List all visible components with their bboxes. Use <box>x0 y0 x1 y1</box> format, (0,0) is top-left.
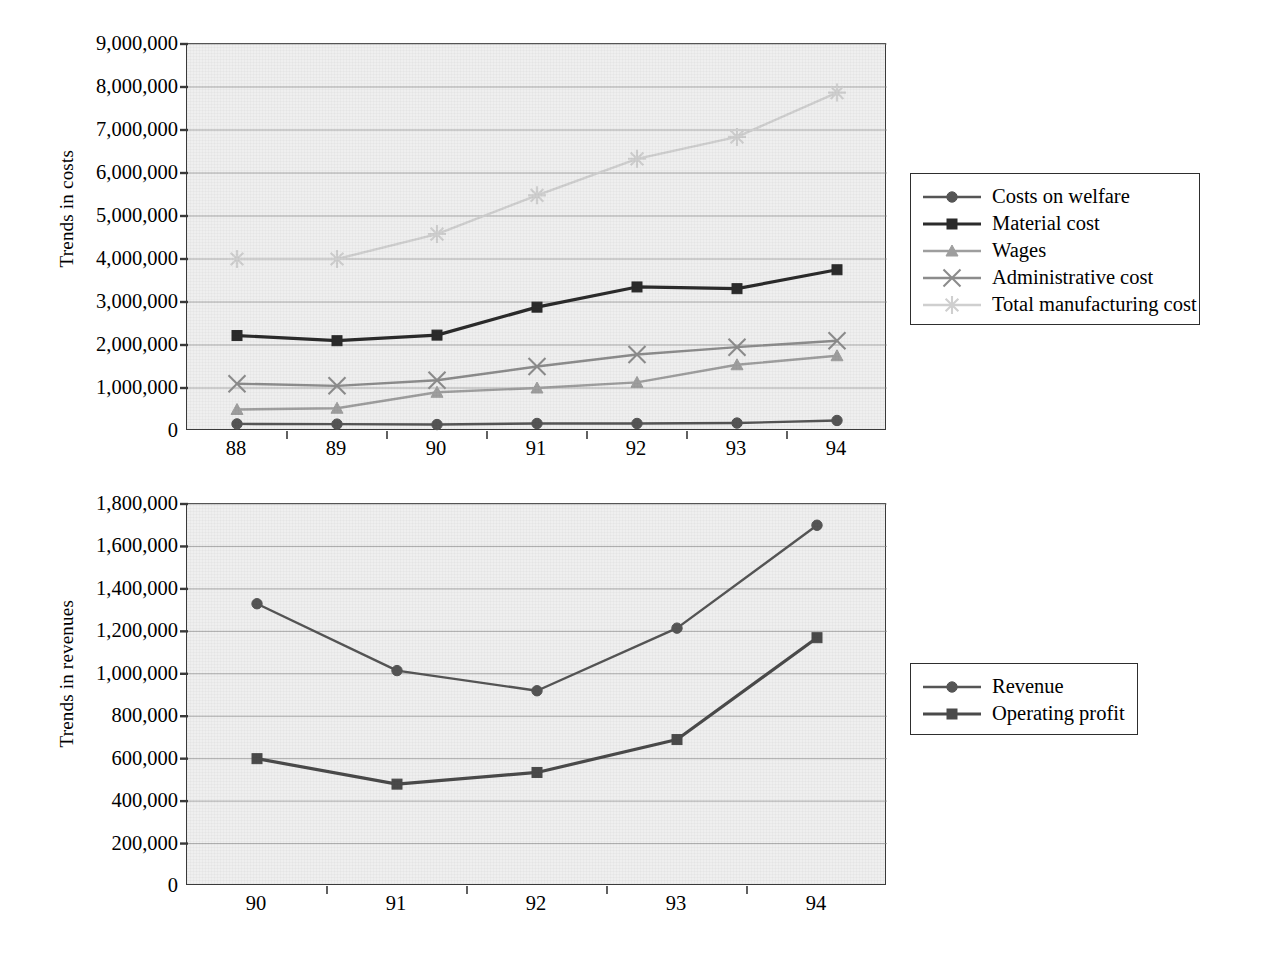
legend-item[interactable]: Revenue <box>911 673 1137 700</box>
y-axis-tick-label: 1,800,000 <box>0 492 178 515</box>
legend-item[interactable]: Wages <box>911 237 1199 264</box>
legend-item-label: Wages <box>992 240 1046 261</box>
chart2-legend: RevenueOperating profit <box>910 663 1138 735</box>
legend-item-label: Material cost <box>992 213 1100 234</box>
y-axis-tick-label: 8,000,000 <box>0 75 178 98</box>
x-axis-tick-label: 93 <box>726 437 747 460</box>
series-operating-profit <box>252 633 822 789</box>
x-axis-tick-label: 91 <box>526 437 547 460</box>
y-axis-tick-label: 0 <box>0 419 178 442</box>
series-material-cost <box>232 265 842 346</box>
legend-item[interactable]: Costs on welfare <box>911 183 1199 210</box>
y-axis-tick-label: 800,000 <box>0 704 178 727</box>
chart2-series-canvas <box>187 504 887 886</box>
y-axis-tick-label: 400,000 <box>0 789 178 812</box>
circle-marker-icon <box>921 186 983 208</box>
circle-marker-icon <box>921 676 983 698</box>
x-axis-tick-label: 93 <box>666 892 687 915</box>
x-axis-tick-label: 94 <box>826 437 847 460</box>
legend-item[interactable]: Material cost <box>911 210 1199 237</box>
y-axis-tick-label: 1,200,000 <box>0 619 178 642</box>
chart-trends-in-revenues: Trends in revenues 0200,000400,000600,00… <box>0 482 1266 965</box>
x-axis-tick-label: 92 <box>626 437 647 460</box>
series-costs-on-welfare <box>232 415 842 429</box>
chart1-legend: Costs on welfareMaterial costWagesAdmini… <box>910 173 1200 325</box>
x-axis-tick-label: 90 <box>246 892 267 915</box>
y-axis-tick-label: 7,000,000 <box>0 118 178 141</box>
y-axis-tick-label: 2,000,000 <box>0 333 178 356</box>
x-axis-tick-label: 90 <box>426 437 447 460</box>
legend-item[interactable]: Operating profit <box>911 700 1137 727</box>
chart2-plot-area <box>186 503 886 885</box>
chart1-y-axis-ticks: 01,000,0002,000,0003,000,0004,000,0005,0… <box>0 0 178 1</box>
y-axis-tick-label: 3,000,000 <box>0 290 178 313</box>
x-axis-tick-label: 88 <box>226 437 247 460</box>
y-axis-tick-label: 200,000 <box>0 831 178 854</box>
y-axis-tick-label: 600,000 <box>0 746 178 769</box>
y-axis-tick-label: 5,000,000 <box>0 204 178 227</box>
legend-item[interactable]: Administrative cost <box>911 264 1199 291</box>
y-axis-tick-label: 6,000,000 <box>0 161 178 184</box>
legend-item-label: Administrative cost <box>992 267 1153 288</box>
asterisk-marker-icon <box>921 294 983 316</box>
y-axis-tick-label: 0 <box>0 874 178 897</box>
chart1-plot-area <box>186 43 886 430</box>
x-axis-tick-label: 92 <box>526 892 547 915</box>
y-axis-tick-label: 9,000,000 <box>0 32 178 55</box>
legend-item-label: Total manufacturing cost <box>992 294 1197 315</box>
series-wages <box>231 350 843 415</box>
y-axis-tick-label: 1,000,000 <box>0 661 178 684</box>
square-marker-icon <box>921 213 983 235</box>
legend-item[interactable]: Total manufacturing cost <box>911 291 1199 318</box>
chart2-y-axis-ticks: 0200,000400,000600,000800,0001,000,0001,… <box>0 482 178 483</box>
x-axis-tick-label: 91 <box>386 892 407 915</box>
chart1-series-canvas <box>187 44 887 431</box>
y-axis-tick-label: 1,600,000 <box>0 534 178 557</box>
x-axis-tick-label: 89 <box>326 437 347 460</box>
chart-trends-in-costs: Trends in costs 01,000,0002,000,0003,000… <box>0 0 1266 482</box>
triangle-marker-icon <box>921 240 983 262</box>
y-axis-tick-label: 1,000,000 <box>0 376 178 399</box>
legend-item-label: Operating profit <box>992 703 1125 724</box>
x-axis-tick-label: 94 <box>806 892 827 915</box>
y-axis-tick-label: 1,400,000 <box>0 576 178 599</box>
legend-item-label: Revenue <box>992 676 1064 697</box>
x-marker-icon <box>921 267 983 289</box>
y-axis-tick-label: 4,000,000 <box>0 247 178 270</box>
legend-item-label: Costs on welfare <box>992 186 1130 207</box>
square-marker-icon <box>921 703 983 725</box>
series-total-manufacturing-cost <box>228 84 846 268</box>
